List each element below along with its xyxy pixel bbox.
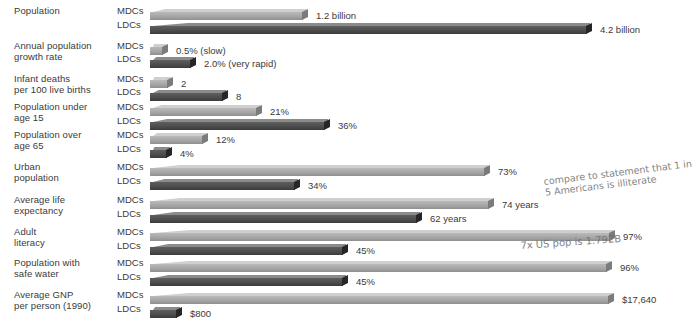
category-label-line1: Population over [14, 129, 81, 140]
bar-value-label-mdc: 1.2 billion [316, 11, 356, 21]
bar-value-label-ldc: 36% [338, 121, 357, 131]
series-label-ldc: LDCs [117, 86, 141, 97]
row-category-label: Infant deathsper 100 live births [14, 73, 134, 96]
bar-mdc [150, 108, 262, 116]
row-category-label: Annual populationgrowth rate [14, 40, 134, 63]
row-category-label: Population withsafe water [14, 257, 134, 280]
series-label-mdc: MDCs [117, 161, 143, 172]
category-label-line2: literacy [14, 237, 134, 248]
bar-face [150, 80, 168, 88]
series-label-ldc: LDCs [117, 175, 141, 186]
bar-face [150, 201, 489, 209]
bar-face [150, 122, 325, 130]
bar-face [150, 215, 417, 223]
bar-mdc [150, 80, 173, 88]
bar-face [150, 136, 203, 144]
row-category-label: Average GNPper person (1990) [14, 289, 134, 312]
series-label-mdc: MDCs [117, 101, 143, 112]
row-category-label: Urbanpopulation [14, 161, 134, 184]
series-label-mdc: MDCs [117, 40, 143, 51]
series-label-mdc: MDCs [117, 257, 143, 268]
category-label-line1: Infant deaths [14, 73, 70, 84]
bar-mdc [150, 47, 168, 55]
bar-ldc [150, 247, 348, 255]
category-label-line1: Population under [14, 101, 87, 112]
series-label-mdc: MDCs [117, 194, 143, 205]
row-category-label: Population [14, 5, 134, 16]
bar-value-label-ldc: $800 [190, 309, 211, 319]
row-category-label: Adultliteracy [14, 226, 134, 249]
row-category-label: Population overage 65 [14, 129, 134, 152]
bar-mdc [150, 168, 490, 176]
bar-value-label-mdc: 96% [620, 263, 639, 273]
series-label-mdc: MDCs [117, 289, 143, 300]
bar-face [150, 182, 295, 190]
series-label-ldc: LDCs [117, 240, 141, 251]
bar-face [150, 278, 343, 286]
bar-value-label-ldc: 4% [180, 149, 194, 159]
bar-value-label-ldc: 62 years [430, 214, 466, 224]
series-label-mdc: MDCs [117, 226, 143, 237]
bar-face [150, 12, 303, 20]
series-label-mdc: MDCs [117, 129, 143, 140]
category-label-line1: Population [14, 5, 60, 16]
bar-ldc [150, 182, 300, 190]
bar-ldc [150, 278, 348, 286]
bar-value-label-ldc: 4.2 billion [600, 25, 640, 35]
bar-value-label-mdc: 74 years [502, 200, 538, 210]
bar-value-label-mdc: 97% [623, 232, 642, 242]
row-category-label: Population underage 15 [14, 101, 134, 124]
bar-ldc [150, 122, 330, 130]
bar-value-label-mdc: 73% [498, 167, 517, 177]
category-label-line2: expectancy [14, 205, 134, 216]
bar-face [150, 168, 485, 176]
bar-mdc [150, 136, 208, 144]
bar-ldc [150, 26, 592, 34]
series-label-ldc: LDCs [117, 303, 141, 314]
bar-face [150, 108, 257, 116]
category-label-line2: growth rate [14, 51, 134, 62]
bar-value-label-ldc: 45% [356, 246, 375, 256]
series-label-ldc: LDCs [117, 271, 141, 282]
bar-ldc [150, 215, 422, 223]
bar-face [150, 247, 343, 255]
bar-value-label-ldc: 34% [308, 181, 327, 191]
category-label-line2: population [14, 172, 134, 183]
bar-face [150, 47, 163, 55]
category-label-line1: Urban [14, 161, 40, 172]
category-label-line1: Average life [14, 194, 65, 205]
category-label-line1: Adult [14, 226, 36, 237]
bar-mdc [150, 264, 612, 272]
bar-mdc [150, 201, 494, 209]
bar-ldc [150, 310, 182, 318]
series-label-ldc: LDCs [117, 208, 141, 219]
category-label-line1: Annual population [14, 40, 92, 51]
bar-value-label-mdc: 12% [216, 135, 235, 145]
bar-value-label-ldc: 2.0% (very rapid) [204, 59, 276, 69]
series-label-ldc: LDCs [117, 115, 141, 126]
category-label-line2: per 100 live births [14, 84, 134, 95]
series-label-mdc: MDCs [117, 5, 143, 16]
bar-face [150, 264, 607, 272]
bar-value-label-mdc: 21% [270, 107, 289, 117]
row-category-label: Average lifeexpectancy [14, 194, 134, 217]
bar-value-label-ldc: 8 [236, 92, 241, 102]
bar-ldc [150, 150, 172, 158]
bar-value-label-ldc: 45% [356, 277, 375, 287]
bar-face [150, 60, 191, 68]
bar-face [150, 150, 167, 158]
series-label-ldc: LDCs [117, 19, 141, 30]
series-label-ldc: LDCs [117, 143, 141, 154]
bar-ldc [150, 60, 196, 68]
series-label-mdc: MDCs [117, 73, 143, 84]
bar-face [150, 93, 223, 101]
bar-face [150, 26, 587, 34]
category-label-line1: Population with [14, 257, 80, 268]
bar-face [150, 310, 177, 318]
category-label-line1: Average GNP [14, 289, 73, 300]
category-label-line2: per person (1990) [14, 300, 134, 311]
bar-face [150, 296, 609, 304]
bar-value-label-mdc: $17,640 [622, 295, 656, 305]
category-label-line2: age 65 [14, 140, 134, 151]
